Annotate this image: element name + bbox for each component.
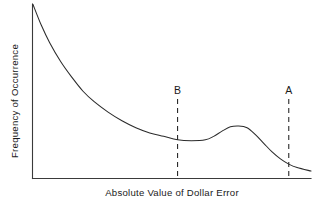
- chart-canvas: B A Absolute Value of Dollar Error Frequ…: [0, 0, 330, 204]
- marker-label-a: A: [285, 84, 292, 96]
- x-axis-title: Absolute Value of Dollar Error: [105, 187, 239, 198]
- distribution-curve: [33, 5, 311, 172]
- y-axis-title: Frequency of Occurrence: [9, 44, 20, 158]
- frequency-distribution-chart: B A Absolute Value of Dollar Error Frequ…: [0, 0, 330, 204]
- marker-label-b: B: [174, 84, 181, 96]
